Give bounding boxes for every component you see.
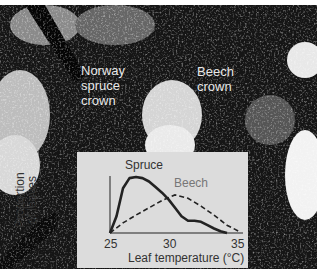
beech-crown-label-line1: Beech <box>197 64 234 79</box>
spruce-crown-label-line1: Norway <box>81 63 125 78</box>
y-axis-label: Proportion of leaves <box>14 160 38 240</box>
beech-crown-label: Beech crown <box>197 64 234 94</box>
spruce-series-label: Spruce <box>125 158 163 172</box>
beech-series-label: Beech <box>174 176 208 190</box>
spruce-series-line <box>110 177 227 233</box>
spruce-crown-label-line2: spruce <box>81 78 125 93</box>
spruce-crown-label: Norway spruce crown <box>81 63 125 108</box>
x-axis-label: Leaf temperature (°C) <box>128 251 244 265</box>
x-tick-35: 35 <box>231 237 244 251</box>
beech-crown-label-line2: crown <box>197 79 234 94</box>
x-tick-25: 25 <box>104 237 117 251</box>
y-axis-label-line2: of leaves <box>26 160 38 240</box>
beech-series-line <box>110 195 240 233</box>
x-tick-30: 30 <box>163 237 176 251</box>
spruce-crown-label-line3: crown <box>81 93 125 108</box>
